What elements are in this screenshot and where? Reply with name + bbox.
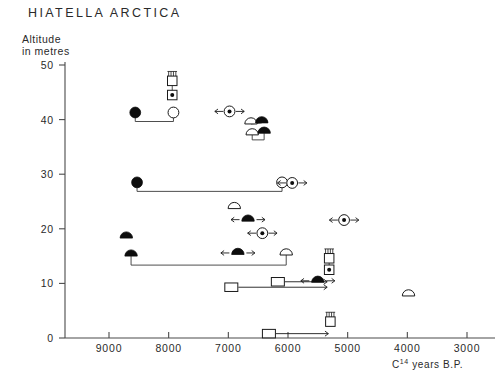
data-point-arrow-circle[interactable] bbox=[215, 106, 244, 117]
data-point-arrow-half-circle[interactable] bbox=[221, 248, 255, 255]
data-point-filled-circle[interactable] bbox=[130, 107, 141, 118]
filled-half-circle-symbol bbox=[120, 232, 132, 238]
x-tick-label: 6000 bbox=[275, 342, 302, 354]
y-tick-label: 0 bbox=[47, 332, 54, 344]
filled-half-circle-symbol bbox=[256, 117, 268, 123]
data-point-filled-half-circle[interactable] bbox=[256, 117, 268, 123]
filled-half-circle-symbol bbox=[258, 127, 270, 133]
data-point-filled-half-circle[interactable] bbox=[120, 232, 132, 238]
filled-circle-symbol bbox=[130, 107, 141, 118]
data-point-open-square[interactable] bbox=[225, 283, 238, 292]
data-point-filled-circle[interactable] bbox=[132, 177, 143, 188]
data-point-filled-half-circle[interactable] bbox=[258, 127, 270, 133]
open-square-symbol bbox=[271, 278, 284, 287]
filled-circle-symbol bbox=[132, 177, 143, 188]
x-tick-label: 7000 bbox=[215, 342, 242, 354]
data-point-hatched-square[interactable] bbox=[324, 249, 334, 263]
filled-half-circle-symbol bbox=[125, 250, 137, 256]
y-tick-label: 20 bbox=[41, 223, 54, 235]
center-dot bbox=[342, 218, 346, 222]
data-point-arrow-half-circle[interactable] bbox=[231, 215, 265, 222]
open-square-symbol bbox=[262, 329, 275, 338]
data-point-hatched-square[interactable] bbox=[326, 312, 336, 326]
data-point-open-circle[interactable] bbox=[168, 107, 179, 118]
x-tick-label: 8000 bbox=[155, 342, 182, 354]
data-point-hatched-square[interactable] bbox=[167, 71, 177, 85]
hatched-square-symbol bbox=[324, 254, 334, 264]
y-tick-label: 30 bbox=[41, 168, 54, 180]
data-point-open-half-circle[interactable] bbox=[280, 249, 292, 255]
open-half-circle-symbol bbox=[228, 202, 240, 208]
hatched-square-symbol bbox=[326, 317, 336, 327]
open-half-circle-symbol bbox=[246, 129, 258, 135]
open-square-symbol bbox=[225, 283, 238, 292]
data-point-open-square[interactable] bbox=[262, 329, 275, 338]
x-tick-label: 5000 bbox=[334, 342, 361, 354]
filled-half-circle-symbol bbox=[242, 215, 254, 221]
axes-group bbox=[65, 62, 495, 338]
center-dot bbox=[327, 268, 331, 272]
chart-root: HIATELLA ARCTICA Altitude in metres C14 … bbox=[0, 0, 502, 376]
x-tick-label: 3000 bbox=[454, 342, 481, 354]
connector-bracket bbox=[131, 255, 286, 265]
data-point-filled-half-circle[interactable] bbox=[125, 250, 137, 256]
data-point-open-square[interactable] bbox=[271, 278, 284, 287]
connector-bracket bbox=[137, 182, 282, 191]
x-tick-label: 4000 bbox=[394, 342, 421, 354]
center-dot bbox=[170, 93, 174, 97]
center-dot bbox=[260, 231, 264, 235]
ticks-group: 900080007000600050004000300001020304050 bbox=[41, 59, 481, 354]
data-point-open-half-circle[interactable] bbox=[246, 129, 258, 135]
hatched-square-symbol bbox=[167, 76, 177, 86]
open-half-circle-symbol bbox=[402, 290, 414, 296]
data-point-arrow-circle[interactable] bbox=[248, 228, 277, 239]
y-tick-label: 40 bbox=[41, 114, 54, 126]
filled-half-circle-symbol bbox=[232, 248, 244, 254]
data-point-open-half-circle[interactable] bbox=[402, 290, 414, 296]
center-dot bbox=[290, 181, 294, 185]
open-half-circle-symbol bbox=[280, 249, 292, 255]
data-points-group bbox=[120, 71, 415, 337]
plot-svg: 900080007000600050004000300001020304050 bbox=[0, 0, 502, 376]
data-point-arrow-circle[interactable] bbox=[329, 215, 358, 226]
open-circle-symbol bbox=[168, 107, 179, 118]
y-tick-label: 10 bbox=[41, 277, 54, 289]
y-tick-label: 50 bbox=[41, 59, 54, 71]
data-point-dot-square[interactable] bbox=[324, 265, 334, 275]
data-point-dot-square[interactable] bbox=[167, 90, 177, 100]
center-dot bbox=[228, 109, 232, 113]
filled-half-circle-symbol bbox=[312, 276, 324, 282]
data-point-open-half-circle[interactable] bbox=[228, 202, 240, 208]
x-tick-label: 9000 bbox=[96, 342, 123, 354]
